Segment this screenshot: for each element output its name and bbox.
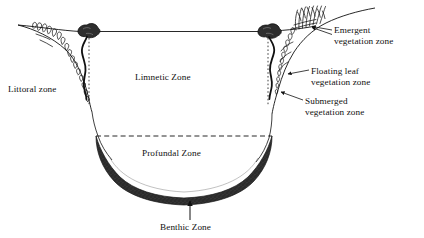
label-leader-lines — [190, 27, 332, 221]
label-emergent-vegetation-zone: Emergent vegetation zone — [334, 25, 393, 47]
lake-zonation-diagram: Littoral zone Limnetic Zone Profundal Zo… — [0, 0, 424, 238]
floating-leaf-leader-line — [288, 70, 309, 74]
right-submerged-vegetation-sketch — [275, 28, 294, 95]
label-floating-line1: Floating leaf — [311, 66, 370, 77]
label-floating-line2: vegetation zone — [311, 77, 370, 88]
label-floating-leaf-vegetation-zone: Floating leaf vegetation zone — [311, 66, 370, 88]
label-benthic-zone: Benthic Zone — [160, 222, 211, 233]
label-submerged-line2: vegetation zone — [305, 107, 364, 118]
label-emergent-line1: Emergent — [334, 25, 393, 36]
label-littoral-zone: Littoral zone — [8, 84, 57, 95]
label-emergent-line2: vegetation zone — [334, 36, 393, 47]
label-submerged-vegetation-zone: Submerged vegetation zone — [305, 96, 364, 118]
submerged-leader-line — [281, 92, 303, 100]
left-bank-slope — [18, 25, 92, 112]
benthic-sediment-layer — [96, 136, 272, 205]
label-limnetic-zone: Limnetic Zone — [135, 72, 191, 83]
label-submerged-line1: Submerged — [305, 96, 364, 107]
label-profundal-zone: Profundal Zone — [142, 148, 201, 159]
